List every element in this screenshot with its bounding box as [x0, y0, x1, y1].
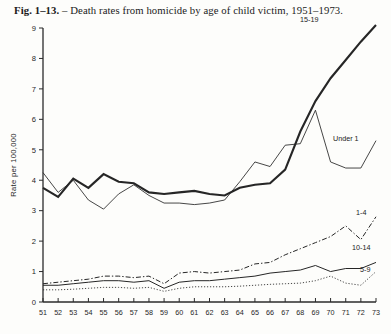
x-tick-label: 73: [372, 308, 380, 317]
y-tick-label: 7: [32, 85, 36, 94]
x-tick-label: 71: [342, 308, 350, 317]
x-tick-label: 51: [39, 308, 47, 317]
series-label-1-4: 1-4: [356, 208, 366, 217]
y-tick-label: 3: [32, 206, 36, 215]
y-tick-label: 6: [32, 115, 36, 124]
y-tick-label: 8: [32, 54, 36, 63]
series-label-15-19: 15-19: [300, 15, 318, 24]
x-tick-label: 72: [357, 308, 365, 317]
x-tick-label: 62: [206, 308, 214, 317]
x-tick-label: 56: [115, 308, 123, 317]
series-line-10-14: [43, 262, 376, 288]
y-tick-label: 4: [32, 176, 36, 185]
y-tick-label: 9: [32, 24, 36, 33]
y-tick-label: 0: [32, 298, 36, 307]
x-tick-label: 58: [145, 308, 153, 317]
x-tick-label: 67: [281, 308, 289, 317]
x-tick-label: 66: [266, 308, 274, 317]
x-tick-label: 52: [54, 308, 62, 317]
x-tick-label: 60: [175, 308, 183, 317]
y-axis-title: Rate per 100,000: [9, 133, 18, 197]
x-tick-label: 54: [84, 308, 92, 317]
series-line-1-4: [43, 217, 376, 284]
chart-series: [43, 25, 376, 291]
x-tick-label: 69: [311, 308, 319, 317]
series-label-10-14: 10-14: [352, 243, 370, 252]
y-tick-label: 2: [32, 237, 36, 246]
x-tick-label: 57: [130, 308, 138, 317]
x-tick-label: 65: [251, 308, 259, 317]
x-tick-label: 70: [327, 308, 335, 317]
x-tick-label: 53: [69, 308, 77, 317]
x-axis-tick-labels: 5152535455565758596061626364656667686970…: [39, 308, 380, 317]
y-axis-tick-labels: 0123456789: [32, 24, 36, 307]
chart-axes: [43, 28, 376, 302]
y-tick-label: 1: [32, 267, 36, 276]
y-tick-label: 5: [32, 146, 36, 155]
x-tick-label: 61: [190, 308, 198, 317]
series-label-under-1: Under 1: [333, 134, 359, 143]
x-tick-label: 63: [221, 308, 229, 317]
chart-plot-area: 0123456789 51525354555657585960616263646…: [0, 0, 391, 334]
x-tick-label: 55: [100, 308, 108, 317]
series-line-15-19: [43, 25, 376, 197]
chart-series-labels: 15-19Under 11-410-145-9: [300, 15, 370, 274]
line-chart: 0123456789 51525354555657585960616263646…: [0, 0, 391, 334]
x-tick-label: 64: [236, 308, 244, 317]
x-tick-label: 59: [160, 308, 168, 317]
series-label-5-9: 5-9: [360, 265, 370, 274]
x-tick-label: 68: [296, 308, 304, 317]
